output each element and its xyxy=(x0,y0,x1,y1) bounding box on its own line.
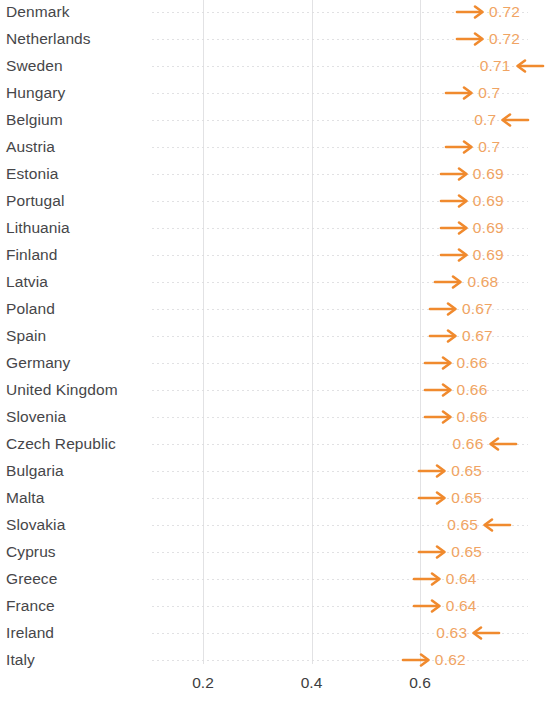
arrow-left-icon xyxy=(488,436,518,452)
chart-row: Bulgaria0.65 xyxy=(0,457,528,484)
arrow-right-icon xyxy=(439,220,469,236)
data-marker: 0.66 xyxy=(453,430,518,457)
chart-row: Hungary0.7 xyxy=(0,79,528,106)
category-label: Bulgaria xyxy=(6,457,64,484)
chart-row: Netherlands0.72 xyxy=(0,25,528,52)
chart-row: France0.64 xyxy=(0,592,528,619)
category-label: Lithuania xyxy=(6,214,70,241)
chart-row: Poland0.67 xyxy=(0,295,528,322)
chart-row: Portugal0.69 xyxy=(0,187,528,214)
data-marker: 0.65 xyxy=(417,484,482,511)
chart-row: Denmark0.72 xyxy=(0,0,528,25)
value-label: 0.67 xyxy=(462,322,493,349)
value-label: 0.65 xyxy=(451,484,482,511)
data-marker: 0.72 xyxy=(455,0,520,25)
data-marker: 0.68 xyxy=(433,268,498,295)
value-label: 0.71 xyxy=(480,52,511,79)
category-label: Austria xyxy=(6,133,55,160)
horizontal-gridline xyxy=(152,660,528,661)
category-label: Greece xyxy=(6,565,57,592)
chart-row: Greece0.64 xyxy=(0,565,528,592)
data-marker: 0.64 xyxy=(412,592,477,619)
value-label: 0.68 xyxy=(467,268,498,295)
arrow-left-icon xyxy=(471,625,501,641)
value-label: 0.66 xyxy=(457,349,488,376)
chart-row: Malta0.65 xyxy=(0,484,528,511)
chart-row: Czech Republic0.66 xyxy=(0,430,528,457)
data-marker: 0.7 xyxy=(444,79,500,106)
arrow-right-icon xyxy=(455,31,485,47)
category-label: Czech Republic xyxy=(6,430,116,457)
data-marker: 0.66 xyxy=(423,376,488,403)
value-label: 0.69 xyxy=(473,160,504,187)
data-marker: 0.69 xyxy=(439,160,504,187)
data-marker: 0.69 xyxy=(439,214,504,241)
category-label: Hungary xyxy=(6,79,65,106)
category-label: Spain xyxy=(6,322,46,349)
data-marker: 0.67 xyxy=(428,295,493,322)
category-label: Poland xyxy=(6,295,55,322)
x-axis-tick-label: 0.6 xyxy=(409,674,431,692)
value-label: 0.65 xyxy=(451,457,482,484)
category-label: Estonia xyxy=(6,160,58,187)
arrow-right-icon xyxy=(433,274,463,290)
data-marker: 0.66 xyxy=(423,349,488,376)
x-axis-tick-label: 0.4 xyxy=(301,674,323,692)
chart-row: Belgium0.7 xyxy=(0,106,528,133)
data-marker: 0.69 xyxy=(439,187,504,214)
chart-row: Ireland0.63 xyxy=(0,619,528,646)
category-label: Denmark xyxy=(6,0,70,25)
value-label: 0.63 xyxy=(436,619,467,646)
data-marker: 0.63 xyxy=(436,619,501,646)
arrow-right-icon xyxy=(417,490,447,506)
category-label: Netherlands xyxy=(6,25,91,52)
category-label: United Kingdom xyxy=(6,376,118,403)
value-label: 0.72 xyxy=(489,25,520,52)
value-label: 0.7 xyxy=(474,106,496,133)
data-marker: 0.67 xyxy=(428,322,493,349)
category-label: Portugal xyxy=(6,187,65,214)
horizontal-gridline xyxy=(152,120,528,121)
chart-row: Sweden0.71 xyxy=(0,52,528,79)
chart-row: Lithuania0.69 xyxy=(0,214,528,241)
category-label: Malta xyxy=(6,484,44,511)
arrow-right-icon xyxy=(439,193,469,209)
value-label: 0.72 xyxy=(489,0,520,25)
data-marker: 0.65 xyxy=(417,538,482,565)
value-label: 0.69 xyxy=(473,187,504,214)
chart-row: Austria0.7 xyxy=(0,133,528,160)
chart-row: Slovenia0.66 xyxy=(0,403,528,430)
category-label: Slovakia xyxy=(6,511,65,538)
data-marker: 0.69 xyxy=(439,241,504,268)
category-label: Belgium xyxy=(6,106,63,133)
category-label: France xyxy=(6,592,55,619)
arrow-left-icon xyxy=(500,112,530,128)
arrow-right-icon xyxy=(428,328,458,344)
arrow-right-icon xyxy=(417,544,447,560)
arrow-right-icon xyxy=(444,139,474,155)
value-label: 0.67 xyxy=(462,295,493,322)
chart-row: United Kingdom0.66 xyxy=(0,376,528,403)
arrow-left-icon xyxy=(482,517,512,533)
data-marker: 0.72 xyxy=(455,25,520,52)
category-label: Germany xyxy=(6,349,70,376)
horizontal-gridline xyxy=(152,66,528,67)
x-axis-tick-label: 0.2 xyxy=(192,674,214,692)
value-label: 0.65 xyxy=(451,538,482,565)
x-axis: 0.20.40.6 xyxy=(0,664,528,705)
chart-row: Germany0.66 xyxy=(0,349,528,376)
chart-row: Latvia0.68 xyxy=(0,268,528,295)
arrow-right-icon xyxy=(455,4,485,20)
data-marker: 0.7 xyxy=(474,106,530,133)
category-label: Cyprus xyxy=(6,538,56,565)
arrow-left-icon xyxy=(515,58,545,74)
value-label: 0.64 xyxy=(446,565,477,592)
arrow-right-icon xyxy=(412,571,442,587)
data-marker: 0.7 xyxy=(444,133,500,160)
value-label: 0.65 xyxy=(447,511,478,538)
arrow-right-icon xyxy=(428,301,458,317)
value-label: 0.66 xyxy=(457,403,488,430)
chart-row: Spain0.67 xyxy=(0,322,528,349)
arrow-right-icon xyxy=(417,463,447,479)
